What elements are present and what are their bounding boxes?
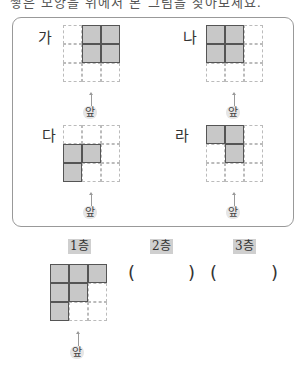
front-label: 앞 — [70, 346, 84, 359]
empty-cell — [88, 283, 107, 302]
empty-cell — [244, 63, 263, 82]
filled-cell — [225, 44, 244, 63]
empty-cell — [88, 302, 107, 321]
filled-cell — [225, 25, 244, 44]
paren-open: ( — [210, 262, 217, 283]
front-label: 앞 — [83, 206, 97, 219]
filled-cell — [82, 144, 101, 163]
option-label: 나 — [183, 26, 197, 47]
front-label: 앞 — [83, 106, 97, 119]
filled-cell — [50, 302, 69, 321]
floor-3-label: 3층 — [233, 239, 256, 254]
empty-cell — [82, 63, 101, 82]
empty-cell — [244, 44, 263, 63]
paren-open: ( — [128, 262, 135, 283]
paren-close: ) — [271, 262, 278, 283]
filled-cell — [63, 144, 82, 163]
empty-cell — [244, 125, 263, 144]
filled-cell — [82, 44, 101, 63]
empty-cell — [101, 163, 120, 182]
question-text-cutoff: 쌓은 모양을 위에서 본 그림을 찾아보세요. — [10, 0, 262, 11]
filled-cell — [69, 283, 88, 302]
filled-cell — [225, 144, 244, 163]
empty-cell — [63, 25, 82, 44]
empty-cell — [82, 125, 101, 144]
empty-cell — [101, 63, 120, 82]
filled-cell — [50, 283, 69, 302]
filled-cell — [82, 25, 101, 44]
arrowhead-icon — [89, 92, 93, 95]
empty-cell — [101, 125, 120, 144]
grid — [206, 25, 263, 82]
empty-cell — [225, 163, 244, 182]
empty-cell — [82, 163, 101, 182]
filled-cell — [63, 163, 82, 182]
filled-cell — [101, 25, 120, 44]
arrowhead-icon — [76, 331, 80, 334]
front-arrow-icon — [78, 334, 79, 346]
option-label: 라 — [175, 124, 189, 145]
filled-cell — [206, 44, 225, 63]
front-label: 앞 — [226, 206, 240, 219]
empty-cell — [206, 163, 225, 182]
empty-cell — [69, 302, 88, 321]
empty-cell — [225, 63, 244, 82]
empty-cell — [101, 144, 120, 163]
filled-cell — [206, 25, 225, 44]
filled-cell — [69, 264, 88, 283]
filled-cell — [101, 44, 120, 63]
paren-close: ) — [188, 262, 195, 283]
empty-cell — [244, 25, 263, 44]
filled-cell — [50, 264, 69, 283]
empty-cell — [206, 63, 225, 82]
empty-cell — [63, 125, 82, 144]
grid — [63, 125, 120, 182]
filled-cell — [88, 264, 107, 283]
arrowhead-icon — [232, 92, 236, 95]
floor-2-label: 2층 — [150, 239, 173, 254]
empty-cell — [63, 63, 82, 82]
empty-cell — [244, 163, 263, 182]
empty-cell — [244, 144, 263, 163]
filled-cell — [225, 125, 244, 144]
empty-cell — [206, 144, 225, 163]
grid — [206, 125, 263, 182]
empty-cell — [63, 44, 82, 63]
option-label: 다 — [42, 124, 56, 145]
front-label: 앞 — [226, 106, 240, 119]
filled-cell — [206, 125, 225, 144]
arrowhead-icon — [89, 192, 93, 195]
option-label: 가 — [38, 26, 52, 47]
grid — [50, 264, 107, 321]
grid — [63, 25, 120, 82]
arrowhead-icon — [232, 192, 236, 195]
floor-1-label: 1층 — [68, 239, 91, 254]
